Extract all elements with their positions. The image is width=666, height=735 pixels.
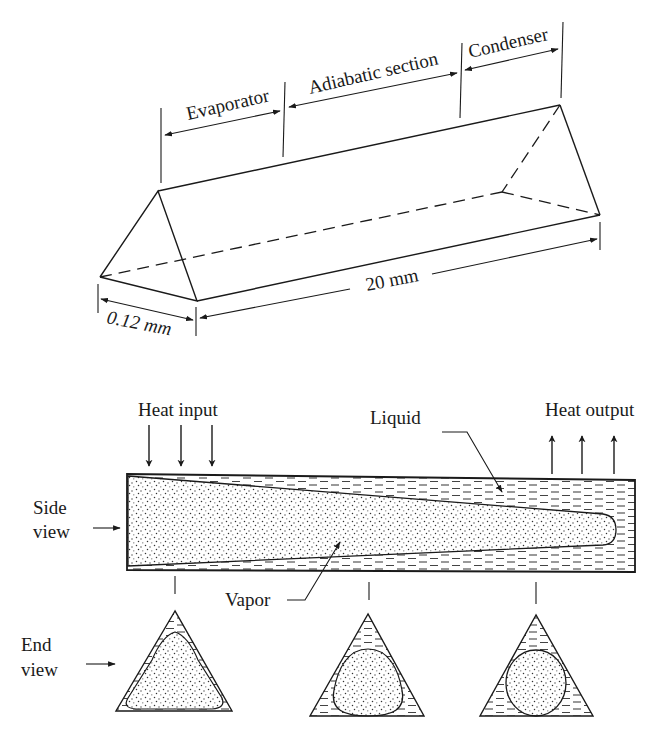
condenser-end-tick — [561, 22, 563, 98]
condenser-label: Condenser — [466, 23, 551, 62]
triangle-3-vapor — [506, 650, 566, 716]
end-view-label-line1: End — [21, 634, 52, 655]
end-view-condenser — [480, 615, 593, 716]
adiabatic-end-tick — [460, 43, 462, 118]
length-dimension-line-left — [200, 289, 350, 318]
heat-pipe-diagram: Evaporator Adiabatic section Condenser 0… — [0, 0, 666, 735]
end-view-label-line2: view — [21, 659, 58, 680]
prism-front-face — [100, 191, 197, 301]
width-dimension-label: 0.12 mm — [105, 306, 173, 339]
prism-back-hidden-base — [502, 192, 600, 215]
prism-top-edge — [158, 105, 560, 191]
isometric-view: Evaporator Adiabatic section Condenser 0… — [98, 22, 600, 339]
prism-hidden-bottom-edge — [100, 192, 502, 277]
heat-input-label: Heat input — [138, 399, 218, 420]
vapor-label: Vapor — [225, 589, 271, 610]
end-view-adiabatic — [310, 614, 424, 716]
liquid-label: Liquid — [370, 407, 421, 428]
prism-back-right-edge — [560, 105, 600, 215]
side-view: Side view Heat input Heat output Liquid … — [33, 399, 635, 610]
length-dimension-label: 20 mm — [364, 264, 421, 295]
side-view-label-line2: view — [33, 521, 70, 542]
evaporator-label: Evaporator — [184, 84, 272, 124]
length-dimension-line-right — [432, 239, 597, 274]
evaporator-end-tick — [283, 82, 285, 157]
heat-output-label: Heat output — [545, 399, 635, 420]
prism-back-hidden-left — [502, 105, 560, 192]
side-view-label-line1: Side — [33, 497, 67, 518]
end-view-evaporator — [116, 611, 232, 711]
end-view: End view — [21, 611, 593, 716]
